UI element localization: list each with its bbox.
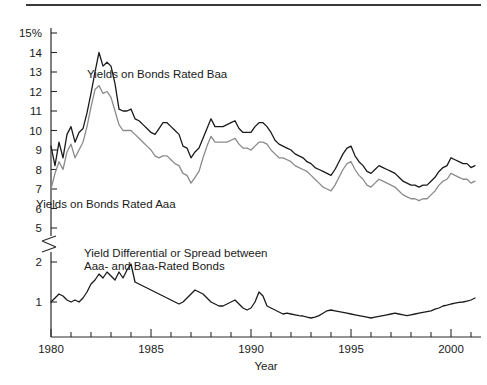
y-axis-tick-label: 15% [19, 27, 42, 39]
series-line-spread [51, 264, 475, 318]
annotation-spread-label-line2: Aaa- and Baa-Rated Bonds [84, 260, 225, 272]
x-axis-tick-label: 1995 [338, 343, 364, 355]
annotation-baa-label: Yields on Bonds Rated Baa [87, 68, 228, 80]
x-axis-tick-label: 1985 [138, 343, 164, 355]
y-axis-tick-label: 14 [29, 47, 42, 59]
chart-canvas: 15%1413121110987652119801985199019952000… [0, 0, 487, 385]
x-axis-tick-label: 1980 [38, 343, 64, 355]
y-axis-tick-label: 9 [36, 144, 42, 156]
x-axis-title: Year [254, 360, 277, 372]
y-axis-tick-label: 12 [29, 86, 42, 98]
y-axis-tick-label: 7 [36, 183, 42, 195]
series-group [51, 53, 475, 319]
series-line-aaa [51, 86, 475, 201]
annotation-spread-label-line1: Yield Differential or Spread between [84, 247, 267, 259]
y-axis-tick-label: 5 [36, 222, 42, 234]
yield-spread-chart: 15%1413121110987652119801985199019952000… [0, 0, 487, 385]
y-axis-tick-label: 8 [36, 164, 42, 176]
y-axis-tick-label: 2 [36, 256, 42, 268]
y-axis-tick-label: 13 [29, 66, 42, 78]
labels-group: 15%1413121110987652119801985199019952000… [19, 27, 464, 372]
annotation-aaa-label: Yields on Bonds Rated Aaa [36, 198, 176, 210]
x-axis-tick-label: 2000 [438, 343, 464, 355]
y-axis-tick-label: 11 [30, 105, 42, 117]
y-axis-tick-label: 10 [29, 125, 42, 137]
y-axis-tick-label: 1 [36, 296, 42, 308]
x-axis-tick-label: 1990 [238, 343, 264, 355]
